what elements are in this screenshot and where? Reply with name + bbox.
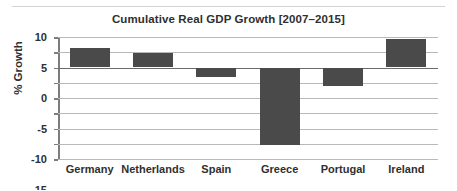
y-axis-tick: -5 — [54, 83, 58, 85]
x-axis-category-label: Netherlands — [121, 163, 185, 175]
y-axis-tick-label: 10 — [35, 31, 47, 43]
gridline — [58, 113, 438, 114]
x-axis-category-label: Germany — [66, 163, 114, 175]
y-axis-tick: 5 — [54, 52, 58, 54]
chart-title: Cumulative Real GDP Growth [2007–2015] — [0, 13, 457, 25]
bar — [196, 68, 236, 77]
gridline — [58, 83, 438, 84]
bar — [133, 53, 173, 68]
gridline — [58, 144, 438, 145]
y-axis-tick: 10 — [54, 37, 58, 39]
y-axis-tick: -15 — [54, 113, 58, 115]
y-axis-tick-label: -5 — [37, 123, 47, 135]
gridline — [58, 37, 438, 38]
top-divider — [12, 6, 445, 7]
chart-figure: Cumulative Real GDP Growth [2007–2015] %… — [0, 0, 457, 190]
bar — [70, 48, 110, 68]
bar — [260, 68, 300, 146]
y-axis-tick-label: -10 — [31, 153, 47, 165]
zero-line — [58, 68, 438, 70]
gridline — [58, 159, 438, 160]
y-axis-tick: -30 — [54, 159, 58, 161]
y-axis-tick: -25 — [54, 144, 58, 146]
x-axis-category-label: Greece — [261, 163, 298, 175]
y-axis-tick-label: 5 — [41, 62, 47, 74]
x-axis-category-label: Portugal — [321, 163, 366, 175]
y-axis-label: % Growth — [12, 28, 24, 108]
x-axis-category-label: Spain — [201, 163, 231, 175]
y-axis-tick: 0 — [54, 68, 58, 70]
y-axis-tick-label: 0 — [41, 92, 47, 104]
y-axis-tick: -10 — [54, 98, 58, 100]
gridline — [58, 98, 438, 99]
gridline — [58, 52, 438, 53]
plot-area: 1050-5-10-15-20-25-30 — [58, 37, 438, 159]
bar — [323, 68, 363, 86]
gridline — [58, 129, 438, 130]
x-axis-category-label: Ireland — [388, 163, 424, 175]
y-axis-tick-label: -15 — [31, 184, 47, 191]
y-axis-tick: -20 — [54, 129, 58, 131]
bar — [386, 39, 426, 67]
